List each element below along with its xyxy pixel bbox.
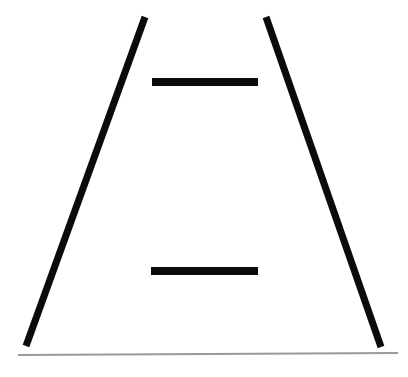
line-figure-svg [0, 0, 408, 377]
paper-background [0, 0, 408, 377]
figure-canvas-root [0, 0, 408, 377]
